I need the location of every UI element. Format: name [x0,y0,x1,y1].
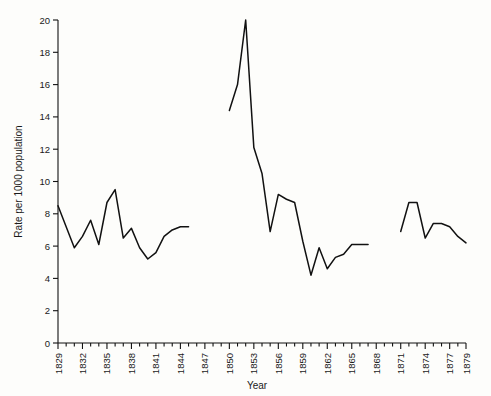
x-tick-label: 1856 [273,353,284,374]
y-tick-label: 20 [39,15,50,26]
x-tick-label: 1871 [395,353,406,374]
y-tick-label: 0 [45,338,50,349]
line-chart: 0246810121416182018291832183518381841184… [0,0,491,396]
y-tick-label: 2 [45,305,50,316]
data-line-segment-1 [58,190,189,259]
x-tick-label: 1859 [297,353,308,374]
x-tick-label: 1838 [126,353,137,374]
x-tick-label: 1879 [461,353,472,374]
y-tick-label: 16 [39,79,50,90]
x-tick-label: 1865 [346,353,357,374]
x-tick-label: 1850 [224,353,235,374]
x-tick-label: 1841 [150,353,161,374]
y-tick-label: 10 [39,176,50,187]
x-tick-label: 1853 [248,353,259,374]
y-tick-label: 8 [45,208,50,219]
x-tick-label: 1868 [371,353,382,374]
data-line-segment-3 [401,203,466,243]
x-tick-label: 1829 [53,353,64,374]
x-tick-label: 1874 [420,353,431,374]
x-tick-label: 1844 [175,353,186,374]
chart-figure: 0246810121416182018291832183518381841184… [0,0,491,396]
x-tick-label: 1847 [199,353,210,374]
x-tick-label: 1862 [322,353,333,374]
x-tick-label: 1835 [101,353,112,374]
x-tick-label: 1877 [444,353,455,374]
y-tick-label: 6 [45,241,50,252]
y-axis-title: Rate per 1000 population [13,125,24,237]
x-axis-title: Year [247,380,268,391]
x-tick-label: 1832 [77,353,88,374]
y-tick-label: 14 [39,111,50,122]
y-tick-label: 18 [39,47,50,58]
y-tick-label: 4 [45,273,50,284]
data-line-segment-2 [229,20,368,275]
y-tick-label: 12 [39,144,50,155]
